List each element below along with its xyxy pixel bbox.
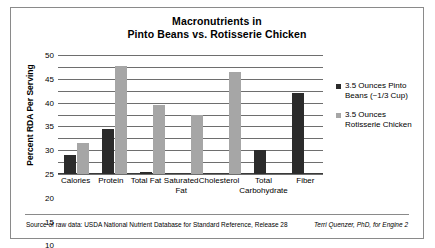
bar	[254, 150, 266, 174]
x-axis-tick: SaturatedFat	[164, 176, 199, 196]
bar-group	[134, 55, 172, 174]
legend-swatch-icon	[336, 84, 341, 89]
bar	[115, 66, 127, 174]
credit-note: Terri Quenzer, PhD, for Engine 2	[314, 221, 408, 228]
bar-group	[285, 55, 323, 174]
x-axis-tick: Total Fat	[128, 176, 163, 196]
bar	[153, 105, 165, 174]
plot-area: 50454035302520151050	[58, 55, 323, 174]
y-axis-tick: 45	[45, 74, 54, 83]
bar-group	[247, 55, 285, 174]
legend-label: 3.5 Ounces PintoBeans (~1/3 Cup)	[345, 81, 408, 101]
legend-item[interactable]: 3.5 Ounces PintoBeans (~1/3 Cup)	[336, 81, 421, 101]
chart-legend: 3.5 Ounces PintoBeans (~1/3 Cup)3.5 Ounc…	[336, 81, 421, 139]
legend-label: 3.5 OuncesRotisserie Chicken	[345, 110, 412, 130]
bar	[77, 143, 89, 174]
bar	[64, 155, 76, 174]
x-axis-tick: Cholesterol	[199, 176, 239, 196]
y-axis-tick: 40	[45, 98, 54, 107]
chart-title-line-1: Macronutrients in	[172, 15, 262, 27]
bar	[102, 129, 114, 174]
x-axis-tick: Calories	[58, 176, 93, 196]
source-note: Source of raw data: USDA National Nutrie…	[26, 221, 288, 228]
bar	[191, 115, 203, 175]
x-axis-tick: Fiber	[288, 176, 323, 196]
gridline: 0	[58, 174, 323, 175]
bar	[140, 172, 152, 174]
bar-group	[58, 55, 96, 174]
x-axis-tick-labels: CaloriesProteinTotal FatSaturatedFatChol…	[58, 176, 323, 196]
y-axis-tick: 10	[45, 241, 54, 248]
bar-groups	[58, 55, 323, 174]
bar	[229, 72, 241, 174]
chart-figure: Macronutrients in Pinto Beans vs. Rotiss…	[10, 7, 424, 239]
y-axis-label: Percent RDA Per Serving	[24, 55, 36, 174]
chart-title: Macronutrients in Pinto Beans vs. Rotiss…	[11, 15, 423, 41]
chart-title-line-2: Pinto Beans vs. Rotisserie Chicken	[11, 28, 423, 41]
x-axis-tick: Protein	[93, 176, 128, 196]
y-axis-tick: 25	[45, 170, 54, 179]
bar-group	[96, 55, 134, 174]
bar	[292, 93, 304, 174]
y-axis-tick: 50	[45, 51, 54, 60]
bar-group	[209, 55, 247, 174]
legend-swatch-icon	[336, 113, 341, 118]
legend-item[interactable]: 3.5 OuncesRotisserie Chicken	[336, 110, 421, 130]
y-axis-tick: 30	[45, 146, 54, 155]
x-axis-tick: TotalCarbohydrate	[239, 176, 287, 196]
y-axis-tick: 20	[45, 193, 54, 202]
footer-divider	[25, 214, 409, 215]
bar-group	[172, 55, 210, 174]
y-axis-tick: 35	[45, 122, 54, 131]
